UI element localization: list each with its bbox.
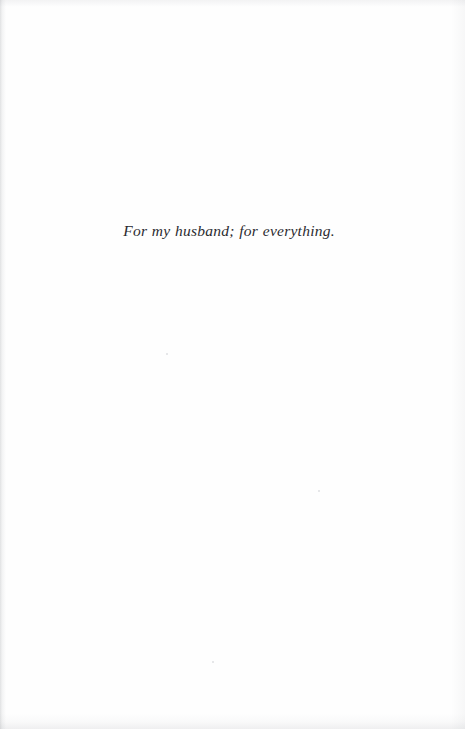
dedication-page: For my husband; for everything. <box>0 0 465 729</box>
dedication-block: For my husband; for everything. <box>0 221 465 241</box>
scan-speck <box>212 661 214 663</box>
scan-speck <box>166 353 168 355</box>
scan-edge-right <box>451 0 465 729</box>
scan-edge-bottom <box>0 713 465 729</box>
scan-speck <box>318 490 320 492</box>
scan-edge-top <box>0 0 465 7</box>
scan-edge-left <box>0 0 6 729</box>
dedication-text: For my husband; for everything. <box>123 221 335 241</box>
